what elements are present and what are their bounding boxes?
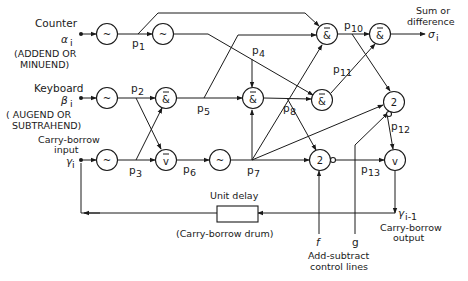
svg-text:10: 10 <box>351 23 363 34</box>
not-gate-gamma: ~ <box>97 150 118 171</box>
control-f: f <box>316 236 322 248</box>
svg-text:v: v <box>392 156 398 167</box>
svg-text:12: 12 <box>398 124 410 135</box>
svg-text:i-1: i-1 <box>405 211 417 222</box>
svg-text:p: p <box>129 164 136 176</box>
svg-text:6: 6 <box>190 167 196 178</box>
beta-symbol: β <box>60 94 68 106</box>
svg-text:v: v <box>163 156 169 167</box>
nand-gate-output: & <box>370 24 391 45</box>
svg-text:difference: difference <box>407 16 455 27</box>
svg-text:13: 13 <box>368 167 380 178</box>
svg-text:SUBTRAHEND): SUBTRAHEND) <box>12 120 81 131</box>
svg-text:2: 2 <box>138 86 144 97</box>
svg-text:4: 4 <box>259 48 265 59</box>
svg-text:~: ~ <box>103 93 111 104</box>
sum-label: Sum or <box>416 5 450 16</box>
svg-text:p: p <box>283 102 290 114</box>
augend-note: ( AUGEND OR <box>6 109 71 120</box>
nand-gate-mid: & <box>312 90 333 111</box>
svg-text:output: output <box>393 232 425 243</box>
add-subtract-label: Add-subtract <box>308 250 369 261</box>
svg-text:5: 5 <box>204 106 210 117</box>
svg-text:control lines: control lines <box>310 261 368 272</box>
svg-text:7: 7 <box>254 168 260 179</box>
svg-text:i: i <box>70 98 73 109</box>
svg-text:p: p <box>361 163 368 175</box>
svg-text:&: & <box>249 94 257 105</box>
svg-text:p: p <box>391 120 398 132</box>
svg-text:2: 2 <box>317 155 323 166</box>
logic-diagram: ~ ~ ~ & ~ v ~ & & & & <box>0 0 468 281</box>
svg-text:input: input <box>54 144 79 155</box>
gamma-out-symbol: γ <box>398 207 405 219</box>
svg-text:p: p <box>344 19 351 31</box>
svg-text:11: 11 <box>340 67 352 78</box>
threshold-gate-right: 2 <box>384 92 405 117</box>
not-gate-beta: ~ <box>97 88 118 109</box>
svg-text:p: p <box>183 163 190 175</box>
svg-text:&: & <box>376 30 384 41</box>
nand-gate-beta: & <box>156 88 177 109</box>
keyboard-label: Keyboard <box>34 82 83 94</box>
svg-text:~: ~ <box>103 29 111 40</box>
svg-text:&: & <box>162 94 170 105</box>
svg-text:p: p <box>247 164 254 176</box>
unit-delay-label: Unit delay <box>210 190 259 201</box>
svg-text:i: i <box>436 32 439 43</box>
not-gate-p1: ~ <box>153 24 174 45</box>
counter-label: Counter <box>35 17 78 29</box>
svg-text:~: ~ <box>103 155 111 166</box>
svg-text:~: ~ <box>159 29 167 40</box>
nand-gate-top: & <box>317 24 338 45</box>
alpha-symbol: α <box>61 33 68 45</box>
svg-text:8: 8 <box>290 106 296 117</box>
svg-text:p: p <box>131 82 138 94</box>
svg-text:&: & <box>323 30 331 41</box>
sigma-symbol: σ <box>428 28 435 40</box>
drum-caption: (Carry-borrow drum) <box>176 228 274 239</box>
svg-text:p: p <box>252 44 259 56</box>
svg-text:2: 2 <box>391 97 397 108</box>
addend-note: (ADDEND OR <box>14 48 77 59</box>
threshold-gate-bottom: 2 <box>310 150 336 171</box>
unit-delay-box: Unit delay (Carry-borrow drum) <box>176 190 274 239</box>
svg-text:p: p <box>333 63 340 75</box>
svg-text:p: p <box>197 102 204 114</box>
svg-text:3: 3 <box>136 168 142 179</box>
nor-gate: v <box>156 150 177 171</box>
svg-text:p: p <box>132 37 139 49</box>
svg-text:MINUEND): MINUEND) <box>20 59 69 70</box>
not-gate-p6: ~ <box>210 150 231 171</box>
svg-text:1: 1 <box>139 41 145 52</box>
svg-text:~: ~ <box>216 155 224 166</box>
or-gate: v <box>385 150 406 171</box>
svg-text:i: i <box>72 159 75 170</box>
svg-text:i: i <box>70 37 73 48</box>
svg-text:&: & <box>318 96 326 107</box>
not-gate-alpha: ~ <box>97 24 118 45</box>
nand-gate-center: & <box>243 88 264 109</box>
control-g: g <box>352 236 359 248</box>
